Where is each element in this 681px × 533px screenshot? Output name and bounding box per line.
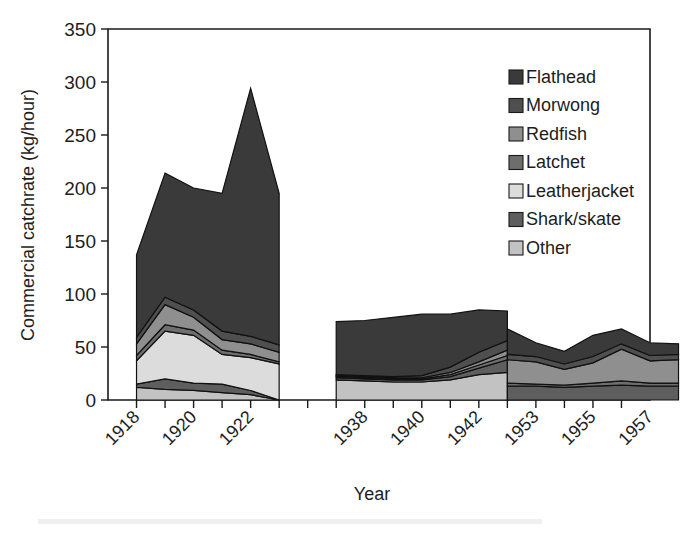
y-tick-label: 150: [64, 231, 96, 252]
y-tick-label: 350: [64, 19, 96, 40]
stacked-area-chart: 050100150200250300350 191819201922193819…: [0, 0, 681, 533]
legend-label-other: Other: [526, 238, 571, 258]
y-tick-label: 100: [64, 284, 96, 305]
legend-label-redfish: Redfish: [526, 124, 587, 144]
area-band-shark-skate: [507, 385, 678, 400]
legend-label-latchet: Latchet: [526, 152, 585, 172]
legend-swatch-latchet: [509, 156, 523, 170]
y-axis-title: Commercial catchrate (kg/hour): [18, 89, 38, 341]
legend-swatch-shark-skate: [509, 213, 523, 227]
x-axis-title: Year: [354, 484, 390, 504]
y-tick-label: 0: [85, 390, 96, 411]
legend-label-shark-skate: Shark/skate: [526, 209, 621, 229]
legend-swatch-leatherjacket: [509, 184, 523, 198]
y-tick-label: 50: [75, 337, 96, 358]
legend-label-flathead: Flathead: [526, 67, 596, 87]
legend-label-morwong: Morwong: [526, 95, 600, 115]
legend-label-leatherjacket: Leatherjacket: [526, 181, 634, 201]
y-tick-label: 250: [64, 125, 96, 146]
y-tick-label: 300: [64, 72, 96, 93]
figure-container: 050100150200250300350 191819201922193819…: [0, 0, 681, 533]
legend-swatch-other: [509, 241, 523, 255]
y-tick-label: 200: [64, 178, 96, 199]
legend-swatch-morwong: [509, 99, 523, 113]
legend-swatch-redfish: [509, 127, 523, 141]
footer-band: [38, 519, 542, 524]
legend-swatch-flathead: [509, 70, 523, 84]
